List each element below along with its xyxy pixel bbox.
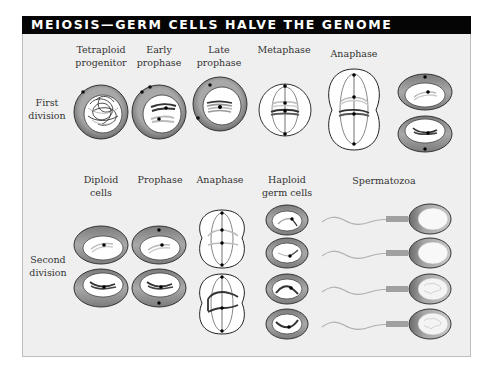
cell-metaphase-1 xyxy=(259,84,311,136)
spermatozoon-3 xyxy=(322,274,451,304)
cell-division-1-product-bottom xyxy=(398,116,452,152)
cell-haploid-2 xyxy=(266,238,308,268)
cell-early-prophase xyxy=(132,85,186,139)
cell-tetraploid-progenitor xyxy=(74,85,128,139)
cell-diploid-top xyxy=(74,226,128,264)
cell-late-prophase xyxy=(193,77,247,131)
cell-anaphase-1 xyxy=(329,69,380,150)
cell-prophase-2-top xyxy=(132,226,186,264)
cell-division-1-product-top xyxy=(398,74,452,110)
cell-anaphase-2-bottom xyxy=(200,274,245,334)
spermatozoon-1 xyxy=(322,204,451,234)
cell-haploid-4 xyxy=(266,309,308,339)
meiosis-illustration xyxy=(0,0,495,376)
cell-haploid-3 xyxy=(266,274,308,304)
cell-prophase-2-bottom xyxy=(132,269,186,307)
cell-anaphase-2-top xyxy=(200,210,245,268)
cell-diploid-bottom xyxy=(74,269,128,307)
spermatozoon-4 xyxy=(322,309,451,339)
cell-haploid-1 xyxy=(266,205,308,235)
spermatozoon-2 xyxy=(322,238,451,268)
